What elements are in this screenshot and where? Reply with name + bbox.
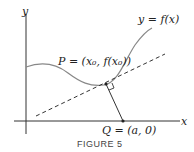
point-q: [121, 119, 124, 122]
y-axis-label: y: [21, 5, 29, 18]
figure-diagram: y x y = f(x) P = (x₀, f(x₀)) Q = (a, 0) …: [0, 0, 194, 152]
right-angle-marker: [109, 83, 114, 90]
point-p-label: P = (x₀, f(x₀)): [57, 55, 131, 68]
point-p: [104, 82, 107, 85]
point-q-label: Q = (a, 0): [102, 124, 156, 137]
curve-label: y = f(x): [137, 13, 179, 26]
normal-segment: [106, 84, 123, 121]
x-axis-label: x: [181, 115, 188, 128]
figure-caption: FIGURE 5: [77, 139, 123, 149]
